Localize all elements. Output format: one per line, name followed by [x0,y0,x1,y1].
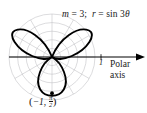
equation-equals-2: = [98,9,103,19]
polar-axis-tick-label: 1 [99,59,103,67]
petal-count-variable: m [62,9,69,19]
point-label-comma: , [44,97,46,107]
equation-label: m = 3; r = sin 3θ [62,10,130,20]
equation-expression: sin 3 [106,9,125,19]
theta-denominator: 2 [49,102,53,109]
polar-axis-label-line2: axis [110,71,125,81]
radius-variable: r [92,9,96,19]
point-coordinate-label: (−1, π2) [29,95,57,110]
point-label-theta-fraction: π2 [49,95,53,110]
polar-axis-label-line1: Polar [110,60,130,70]
theta-symbol: θ [125,9,130,19]
polar-rose-figure: m = 3; r = sin 3θ 1 Polar axis (−1, π2) [0,0,147,113]
point-label-r-value: −1 [33,97,44,107]
equation-separator: ; [84,9,87,19]
point-label-close-paren: ) [53,95,57,107]
equation-equals-1: = [71,9,76,19]
